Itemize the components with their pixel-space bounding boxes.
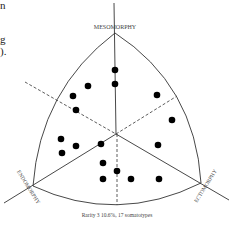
- ectomorphy-label: ECTOMORPHY: [193, 168, 218, 203]
- data-point: [70, 93, 77, 100]
- data-point: [100, 160, 107, 167]
- data-point: [85, 83, 92, 90]
- data-point: [98, 141, 105, 148]
- data-point: [154, 92, 161, 99]
- data-point: [155, 142, 162, 149]
- ectomorphy-axis: [116, 134, 229, 200]
- data-point: [169, 117, 176, 124]
- dashed-line-right: [116, 96, 177, 134]
- data-point: [73, 143, 80, 150]
- data-point: [112, 81, 119, 88]
- mesomorphy-label: MESOMORPHY: [94, 24, 137, 30]
- data-point: [59, 150, 66, 157]
- data-point: [100, 176, 107, 183]
- data-point: [128, 176, 135, 183]
- endomorphy-label: ENDOMORPHY: [16, 169, 42, 205]
- data-point: [156, 176, 163, 183]
- data-point: [73, 107, 80, 114]
- chart-caption: Rarity 3 10.6%, 17 somatotypes: [82, 212, 153, 218]
- dashed-line-left: [25, 82, 116, 134]
- data-point: [114, 168, 121, 175]
- data-points: [58, 67, 176, 183]
- data-point: [58, 136, 65, 143]
- somatochart: MESOMORPHY ENDOMORPHY ECTOMORPHY Rarity …: [0, 0, 231, 225]
- data-point: [112, 67, 119, 74]
